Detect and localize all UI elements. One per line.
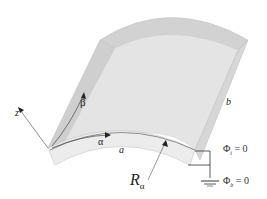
z-axis-label: z [15,108,19,118]
alpha-label: α [98,137,103,147]
beta-label: β [80,97,86,108]
top-potential-label: Φt = 0 [223,144,248,156]
shell-diagram: z β α a b Rα Φt = 0 Φb = 0 [0,0,267,199]
a-dimension-label: a [119,145,124,155]
bottom-potential-label: Φb = 0 [223,176,249,188]
b-dimension-label: b [226,97,231,107]
radius-label: Rα [130,172,145,191]
z-axis-line [20,110,48,148]
